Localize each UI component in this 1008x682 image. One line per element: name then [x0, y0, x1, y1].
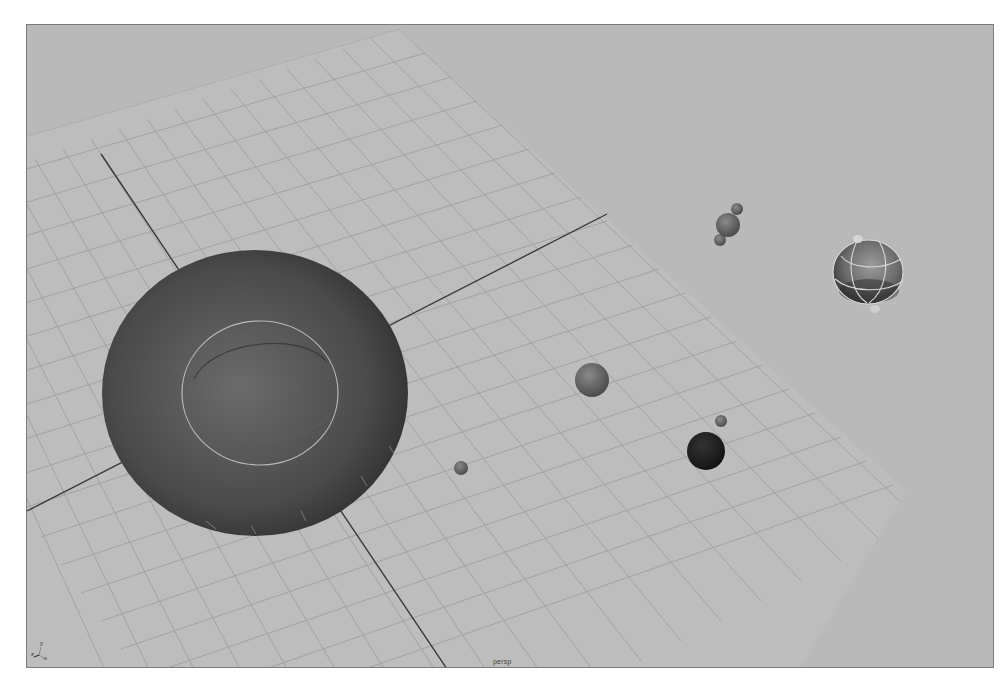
- x-axis-label: x: [44, 655, 47, 661]
- y-axis-label: y: [40, 640, 43, 646]
- small-sphere[interactable]: [454, 461, 468, 475]
- perspective-viewport[interactable]: z y x persp: [26, 24, 994, 668]
- camera-name-label: persp: [493, 658, 512, 665]
- medium-sphere[interactable]: [575, 363, 609, 397]
- dark-sphere[interactable]: [687, 432, 725, 470]
- scene-canvas[interactable]: [27, 25, 994, 668]
- axis-gizmo: z y x: [31, 641, 55, 663]
- molecule-cluster[interactable]: [714, 203, 743, 246]
- z-axis-label: z: [31, 651, 34, 657]
- wireframe-globe[interactable]: [833, 235, 903, 313]
- large-sphere[interactable]: [102, 250, 408, 536]
- tiny-sphere[interactable]: [715, 415, 727, 427]
- page: z y x persp: [0, 0, 1008, 682]
- axis-gizmo-icon: [31, 641, 55, 663]
